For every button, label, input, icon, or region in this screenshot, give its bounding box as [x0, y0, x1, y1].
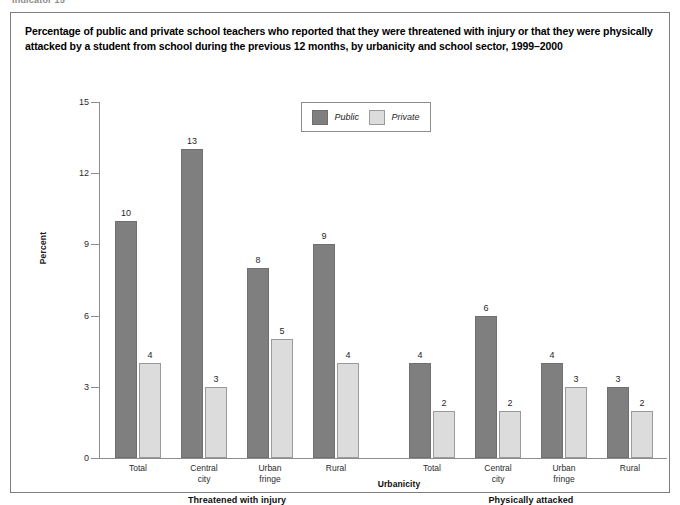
figure-panel: Percentage of public and private school …: [10, 12, 670, 493]
y-axis-line: [99, 102, 100, 458]
bar-1-1-private[interactable]: 2: [499, 411, 521, 458]
bar-value-label: 4: [147, 351, 152, 360]
category-label-0-1: Central city: [169, 463, 239, 485]
bar-value-label: 4: [549, 351, 554, 360]
bar-1-2-public[interactable]: 4: [541, 363, 563, 458]
y-axis-tick-label-6: 6: [63, 312, 89, 321]
y-axis-tick-labels: 03691215: [61, 91, 89, 459]
y-axis-tick-3: [91, 387, 100, 388]
bar-0-0-private[interactable]: 4: [139, 363, 161, 458]
bar-value-label: 8: [255, 256, 260, 265]
bar-1-0-private[interactable]: 2: [433, 411, 455, 458]
group-label-0: Threatened with injury: [115, 495, 359, 505]
bar-0-3-public[interactable]: 9: [313, 244, 335, 458]
bar-value-label: 2: [507, 399, 512, 408]
running-head: Indicator 15: [12, 0, 65, 5]
figure-title: Percentage of public and private school …: [25, 24, 653, 54]
category-label-0-3: Rural: [301, 463, 371, 474]
bar-value-label: 13: [187, 137, 197, 146]
bar-0-1-public[interactable]: 13: [181, 149, 203, 458]
category-label-1-1: Central city: [463, 463, 533, 485]
category-label-0-2: Urban fringe: [235, 463, 305, 485]
category-label-0-0: Total: [103, 463, 173, 474]
x-axis-title: Urbanicity: [339, 479, 459, 489]
group-label-1: Physically attacked: [409, 495, 653, 505]
y-axis-tick-label-3: 3: [63, 383, 89, 392]
y-axis-tick-0: [91, 458, 100, 459]
bar-value-label: 3: [213, 375, 218, 384]
y-axis-tick-label-12: 12: [63, 169, 89, 178]
bar-value-label: 3: [573, 375, 578, 384]
y-axis-tick-9: [91, 244, 100, 245]
y-axis-tick-label-9: 9: [63, 240, 89, 249]
y-axis-tick-label-15: 15: [63, 98, 89, 107]
bar-1-2-private[interactable]: 3: [565, 387, 587, 458]
bar-0-2-public[interactable]: 8: [247, 268, 269, 458]
bar-0-3-private[interactable]: 4: [337, 363, 359, 458]
bar-1-3-private[interactable]: 2: [631, 411, 653, 458]
bar-value-label: 6: [483, 304, 488, 313]
y-axis-tick-12: [91, 173, 100, 174]
bar-value-label: 5: [279, 327, 284, 336]
y-axis-title: Percent: [38, 232, 48, 265]
bar-value-label: 3: [615, 375, 620, 384]
bar-1-1-public[interactable]: 6: [475, 316, 497, 458]
category-label-1-2: Urban fringe: [529, 463, 599, 485]
bar-value-label: 4: [345, 351, 350, 360]
bar-0-0-public[interactable]: 10: [115, 221, 137, 458]
bar-1-3-public[interactable]: 3: [607, 387, 629, 458]
bar-1-0-public[interactable]: 4: [409, 363, 431, 458]
bar-0-2-private[interactable]: 5: [271, 339, 293, 458]
bar-value-label: 9: [321, 232, 326, 241]
category-label-1-0: Total: [397, 463, 467, 474]
y-axis-tick-15: [91, 102, 100, 103]
bar-value-label: 2: [639, 399, 644, 408]
bar-value-label: 10: [121, 209, 131, 218]
category-label-1-3: Rural: [595, 463, 665, 474]
bar-value-label: 2: [441, 399, 446, 408]
x-axis-line: [99, 458, 667, 459]
y-axis-tick-6: [91, 316, 100, 317]
y-axis-tick-label-0: 0: [63, 454, 89, 463]
bar-value-label: 4: [417, 351, 422, 360]
bar-0-1-private[interactable]: 3: [205, 387, 227, 458]
chart-plot-area: 03691215 Percent 104133859442624332 Tota…: [89, 91, 667, 459]
